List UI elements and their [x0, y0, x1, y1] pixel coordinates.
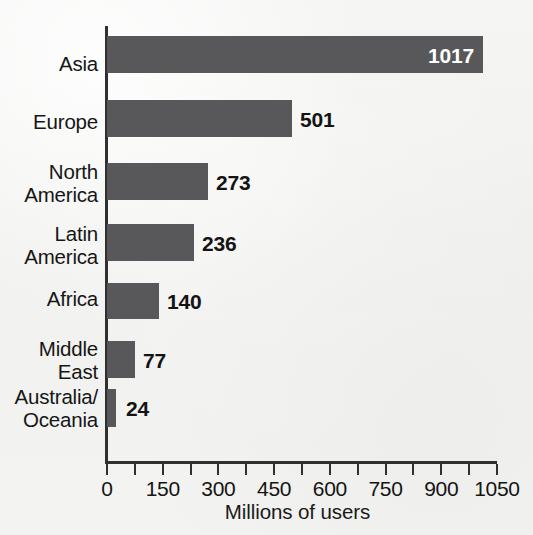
bar-europe[interactable]: [107, 100, 292, 137]
x-axis-major-tick: [496, 464, 498, 475]
bar-value-africa: 140: [167, 290, 201, 314]
category-label-australia-oceania: Australia/ Oceania: [15, 385, 98, 431]
x-axis-major-tick: [440, 464, 442, 475]
x-axis-major-tick: [217, 464, 219, 475]
x-axis-tick-label: 750: [368, 477, 402, 501]
category-label-europe: Europe: [33, 110, 98, 133]
x-axis-minor-tick: [245, 464, 247, 475]
x-axis-tick-label: 150: [146, 477, 180, 501]
category-label-africa: Africa: [47, 287, 98, 310]
category-label-asia: Asia: [59, 52, 98, 75]
x-axis-tick-label: 450: [257, 477, 291, 501]
x-axis-tick-label: 0: [101, 477, 112, 501]
bar-value-north-america: 273: [216, 171, 250, 195]
bar-value-australia-oceania: 24: [126, 397, 149, 421]
x-axis-major-tick: [162, 464, 164, 475]
category-label-north-america: North America: [24, 160, 98, 206]
bar-value-europe: 501: [300, 108, 334, 132]
bar-value-asia: 1017: [428, 44, 474, 68]
x-axis-major-tick: [329, 464, 331, 475]
x-axis-minor-tick: [412, 464, 414, 475]
x-axis-tick-label: 900: [424, 477, 458, 501]
bar-middle-east[interactable]: [107, 341, 135, 378]
x-axis-minor-tick: [357, 464, 359, 475]
x-axis-minor-tick: [301, 464, 303, 475]
x-axis-tick-label: 300: [201, 477, 235, 501]
x-axis-minor-tick: [134, 464, 136, 475]
x-axis-major-tick: [106, 464, 108, 475]
bar-africa[interactable]: [107, 283, 159, 319]
x-axis-minor-tick: [190, 464, 192, 475]
category-label-latin-america: Latin America: [24, 222, 98, 268]
x-axis-tick-label: 600: [313, 477, 347, 501]
plot-area: Asia 1017 Europe 501 North America 273: [0, 0, 533, 535]
x-axis-major-tick: [385, 464, 387, 475]
bar-north-america[interactable]: [107, 163, 208, 200]
x-axis-tick-label: 1050: [474, 477, 520, 501]
x-axis-minor-tick: [468, 464, 470, 475]
bar-australia-oceania[interactable]: [107, 389, 116, 427]
x-axis-major-tick: [273, 464, 275, 475]
category-label-middle-east: Middle East: [39, 337, 98, 383]
bar-latin-america[interactable]: [107, 224, 194, 261]
bar-value-middle-east: 77: [143, 349, 166, 373]
bar-value-latin-america: 236: [202, 232, 236, 256]
bar-asia[interactable]: [107, 36, 483, 73]
x-axis-title: Millions of users: [0, 500, 533, 524]
horizontal-bar-chart: Asia 1017 Europe 501 North America 273: [0, 0, 533, 535]
